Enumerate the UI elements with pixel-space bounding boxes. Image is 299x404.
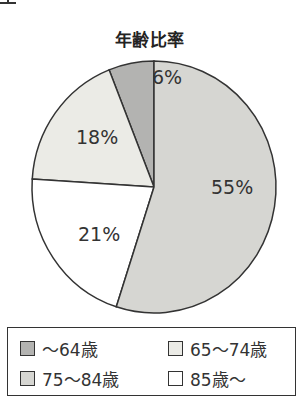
legend-item-65-74: 65〜74歳	[168, 336, 267, 361]
pie-chart: 6%18%21%55%	[0, 0, 299, 330]
legend-swatch	[168, 371, 183, 386]
slice-label: 55%	[211, 176, 253, 198]
legend-label: 75〜84歳	[42, 366, 119, 391]
legend-swatch	[20, 341, 35, 356]
legend-label: 〜64歳	[42, 336, 98, 361]
legend-item-75-84: 75〜84歳	[20, 366, 119, 391]
slice-label: 18%	[76, 126, 118, 148]
legend-swatch	[168, 341, 183, 356]
slice-label: 21%	[78, 223, 120, 245]
legend-label: 65〜74歳	[190, 336, 267, 361]
chart-legend: 〜64歳 65〜74歳 75〜84歳 85歳〜	[7, 327, 296, 396]
legend-swatch	[20, 371, 35, 386]
legend-item-85-plus: 85歳〜	[168, 366, 246, 391]
slice-label: 6%	[152, 66, 182, 88]
legend-item-under-64: 〜64歳	[20, 336, 98, 361]
legend-label: 85歳〜	[190, 366, 246, 391]
